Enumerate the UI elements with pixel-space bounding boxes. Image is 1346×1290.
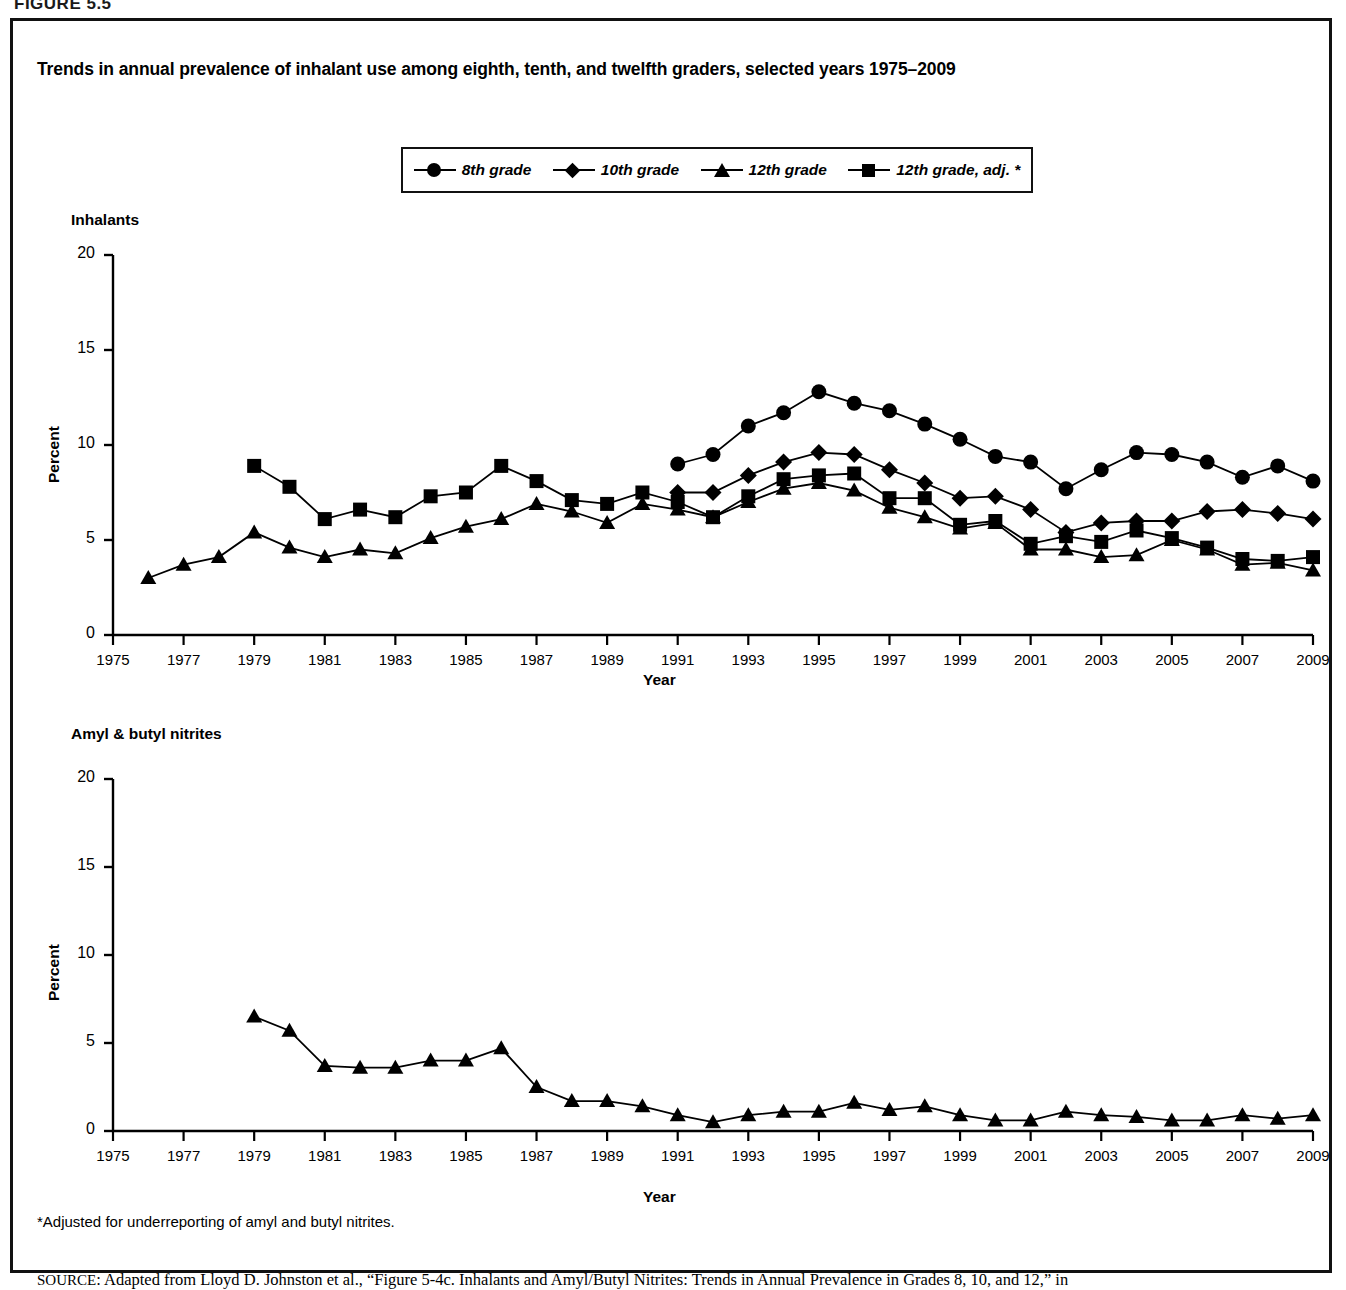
data-point-square [247,459,261,473]
y-tick-label: 20 [61,244,95,262]
data-point-triangle [246,524,262,538]
data-point-triangle [281,540,297,554]
data-point-square [812,468,826,482]
legend-label: 10th grade [601,161,679,179]
data-point-square [424,489,438,503]
x-tick-label: 1981 [302,651,348,668]
data-point-square [1235,552,1249,566]
y-tick-label: 5 [61,1032,95,1050]
data-point-square [1165,531,1179,545]
x-tick-label: 1975 [90,1147,136,1164]
data-point-diamond [1234,501,1251,518]
data-point-diamond [952,490,969,507]
data-point-triangle [140,570,156,584]
data-point-triangle [246,1009,262,1023]
data-point-diamond [1199,503,1216,520]
plot-area-inhalants [13,193,1335,693]
figure-frame: Trends in annual prevalence of inhalant … [10,18,1332,1273]
data-point-circle [1306,474,1321,489]
x-tick-label: 1993 [725,1147,771,1164]
legend-item-12th-grade[interactable]: 12th grade [701,161,827,179]
data-point-circle [741,419,756,434]
data-point-diamond [987,488,1004,505]
x-tick-label: 2005 [1149,651,1195,668]
legend-item-10th-grade[interactable]: 10th grade [553,161,679,179]
source-body: : Adapted from Lloyd D. Johnston et al.,… [96,1270,1068,1289]
data-point-triangle [423,1053,439,1067]
y-tick-label: 10 [61,434,95,452]
data-point-triangle [564,1093,580,1107]
data-point-diamond [810,444,827,461]
data-point-circle [811,384,826,399]
legend-item-12th-grade-adj[interactable]: 12th grade, adj. * [848,161,1020,179]
data-point-triangle [211,549,227,563]
x-tick-label: 1999 [937,1147,983,1164]
y-tick-label: 15 [61,339,95,357]
x-tick-label: 1985 [443,1147,489,1164]
x-tick-label: 1997 [866,651,912,668]
legend-label: 12th grade, adj. * [896,161,1020,179]
data-point-square [953,518,967,532]
x-tick-label: 2007 [1219,1147,1265,1164]
data-point-triangle [281,1023,297,1037]
data-point-square [1059,529,1073,543]
source-text: SOURCE: Adapted from Lloyd D. Johnston e… [37,1270,1068,1290]
data-point-diamond [1022,501,1039,518]
data-point-square [494,459,508,473]
data-point-square [777,472,791,486]
data-point-square [565,493,579,507]
y-tick-label: 5 [61,529,95,547]
data-point-triangle [1234,1107,1250,1121]
data-point-diamond [740,467,757,484]
data-point-circle [1129,445,1144,460]
data-point-diamond [881,461,898,478]
circle-marker-icon [414,163,456,177]
data-point-square [459,486,473,500]
x-tick-label: 2003 [1078,1147,1124,1164]
data-point-circle [847,396,862,411]
data-point-circle [988,449,1003,464]
x-tick-label: 1995 [796,651,842,668]
data-point-triangle [846,1095,862,1109]
y-tick-label: 0 [61,1120,95,1138]
data-point-square [882,491,896,505]
data-point-square [282,480,296,494]
data-point-triangle [917,1098,933,1112]
figure-title: Trends in annual prevalence of inhalant … [37,59,956,80]
figure-number: FIGURE 5.5 [14,0,112,14]
y-tick-label: 20 [61,768,95,786]
data-point-triangle [458,1053,474,1067]
data-point-square [671,495,685,509]
x-tick-label: 1987 [514,1147,560,1164]
data-point-diamond [775,454,792,471]
x-tick-label: 2009 [1290,651,1336,668]
data-point-triangle [1058,542,1074,556]
square-marker-icon [848,163,890,177]
data-point-circle [917,417,932,432]
x-tick-label: 2003 [1078,651,1124,668]
data-point-square [1200,541,1214,555]
triangle-marker-icon [701,163,743,177]
data-point-square [388,510,402,524]
x-tick-label: 1985 [443,651,489,668]
x-tick-label: 1993 [725,651,771,668]
y-tick-label: 0 [61,624,95,642]
x-tick-label: 1997 [866,1147,912,1164]
x-tick-label: 1999 [937,651,983,668]
data-point-square [988,514,1002,528]
legend-label: 8th grade [462,161,532,179]
legend-item-8th-grade[interactable]: 8th grade [414,161,532,179]
x-tick-label: 2001 [1008,1147,1054,1164]
x-tick-label: 1989 [584,651,630,668]
x-tick-label: 1995 [796,1147,842,1164]
data-point-circle [670,457,685,472]
data-point-diamond [1093,514,1110,531]
data-point-circle [1094,462,1109,477]
data-point-square [1094,535,1108,549]
data-point-square [635,486,649,500]
data-point-square [318,512,332,526]
chart-panel-nitrites: Amyl & butyl nitrites Percent Year 05101… [13,701,1335,1201]
x-tick-label: 1979 [231,1147,277,1164]
data-point-square [530,474,544,488]
data-point-circle [1235,470,1250,485]
